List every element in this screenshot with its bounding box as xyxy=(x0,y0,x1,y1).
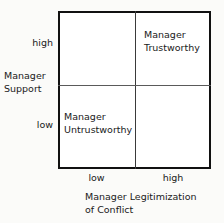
quadrant-bottom-left-label: Manager Untrustworthy xyxy=(64,111,132,136)
quadrant-bottom-left-line1: Manager xyxy=(64,111,132,124)
horizontal-divider-line xyxy=(58,85,211,86)
x-axis-tick-high: high xyxy=(135,172,211,184)
x-axis-title-line2: of Conflict xyxy=(85,203,197,216)
quadrant-top-right-line2: Trustworthy xyxy=(144,42,200,55)
quadrant-bottom-left-line2: Untrustworthy xyxy=(64,124,132,137)
vertical-divider-line xyxy=(135,11,136,169)
x-axis-title: Manager Legitimization of Conflict xyxy=(85,190,197,216)
y-axis-tick-high: high xyxy=(0,37,53,49)
quadrant-matrix-figure: Manager Trustworthy Manager Untrustworth… xyxy=(0,0,224,223)
x-axis-title-line1: Manager Legitimization xyxy=(85,190,197,203)
quadrant-top-right-label: Manager Trustworthy xyxy=(144,29,200,54)
y-axis-title-line1: Manager xyxy=(4,69,46,82)
y-axis-title-line2: Support xyxy=(4,82,46,95)
quadrant-top-right-line1: Manager xyxy=(144,29,200,42)
y-axis-title: Manager Support xyxy=(4,69,46,95)
y-axis-tick-low: low xyxy=(0,119,53,131)
x-axis-tick-low: low xyxy=(58,172,135,184)
